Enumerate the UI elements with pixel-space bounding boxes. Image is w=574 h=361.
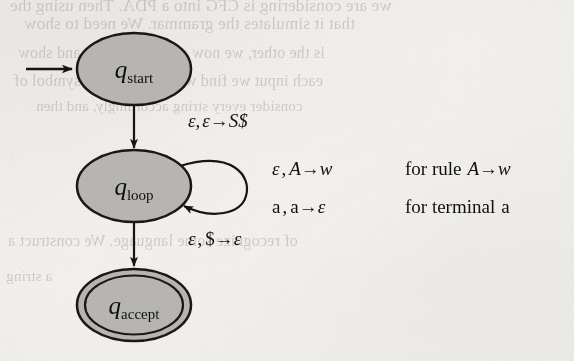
pda-state-diagram-figure: we are considering is CFG into a PDA. Th…	[0, 0, 574, 361]
state-q-loop[interactable]	[77, 150, 191, 222]
state-q-accept[interactable]	[77, 269, 191, 341]
diagram-canvas: qstart qloop qaccept	[0, 0, 574, 361]
state-q-start[interactable]	[77, 33, 191, 105]
